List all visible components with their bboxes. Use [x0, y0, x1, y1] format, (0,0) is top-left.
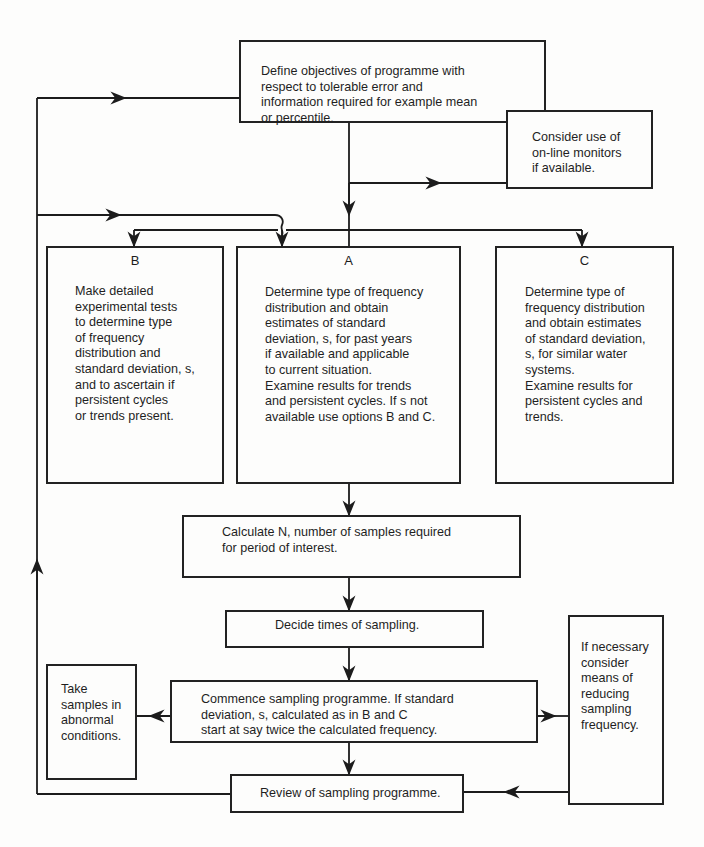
calculate-n-box: Calculate N, number of samples required …	[182, 515, 521, 578]
option-a-text: Determine type of frequency distribution…	[265, 285, 435, 425]
online-monitors-box: Consider use of on-line monitors if avai…	[506, 110, 653, 189]
decide-times-box: Decide times of sampling.	[225, 610, 484, 648]
objectives-text: Define objectives of programme with resp…	[261, 64, 477, 126]
online-monitors-text: Consider use of on-line monitors if avai…	[532, 130, 622, 177]
option-c-text: Determine type of frequency distribution…	[525, 285, 645, 425]
option-a-label: A	[238, 253, 459, 268]
commence-box: Commence sampling programme. If standard…	[170, 680, 538, 743]
option-a-box: A Determine type of frequency distributi…	[236, 246, 461, 484]
option-b-box: B Make detailed experimental tests to de…	[46, 246, 224, 484]
option-b-text: Make detailed experimental tests to dete…	[75, 284, 195, 424]
option-c-label: C	[497, 253, 672, 268]
option-c-box: C Determine type of frequency distributi…	[495, 246, 674, 484]
option-b-label: B	[48, 253, 222, 268]
calculate-n-text: Calculate N, number of samples required …	[222, 525, 451, 556]
objectives-box: Define objectives of programme with resp…	[239, 40, 546, 123]
abnormal-box: Take samples in abnormal conditions.	[46, 664, 137, 780]
decide-times-text: Decide times of sampling.	[275, 618, 419, 634]
abnormal-text: Take samples in abnormal conditions.	[61, 682, 121, 744]
review-text: Review of sampling programme.	[260, 786, 441, 802]
review-box: Review of sampling programme.	[230, 774, 464, 813]
commence-text: Commence sampling programme. If standard…	[201, 692, 454, 739]
reduce-frequency-text: If necessary consider means of reducing …	[581, 640, 649, 734]
reduce-frequency-box: If necessary consider means of reducing …	[568, 615, 664, 805]
